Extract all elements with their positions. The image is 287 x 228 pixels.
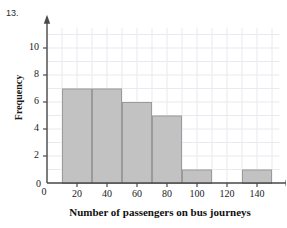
x-tick-label: 140 xyxy=(245,188,269,199)
histogram-bar xyxy=(153,116,182,184)
x-tick-label: 60 xyxy=(125,188,149,199)
x-tick-label: 20 xyxy=(65,188,89,199)
x-tick-label: 100 xyxy=(185,188,209,199)
histogram-bar xyxy=(183,170,212,184)
x-axis-title: Number of passengers on bus journeys xyxy=(40,206,280,218)
histogram-bar xyxy=(63,89,92,184)
x-axis-arrowhead xyxy=(286,180,287,186)
y-axis-arrowhead xyxy=(44,15,50,24)
histogram-bar xyxy=(243,170,272,184)
y-tick-label: 2 xyxy=(21,149,39,160)
x-tick-label: 80 xyxy=(155,188,179,199)
histogram-figure: 13. Frequency Number of passengers on bu… xyxy=(0,0,286,228)
x-tick-label: 0 xyxy=(32,186,56,197)
histogram-bar xyxy=(123,103,152,184)
x-tick-label: 120 xyxy=(215,188,239,199)
y-tick-label: 8 xyxy=(21,68,39,79)
y-tick-label: 6 xyxy=(21,95,39,106)
y-tick-label: 10 xyxy=(21,41,39,52)
x-tick-label: 40 xyxy=(95,188,119,199)
y-tick-label: 4 xyxy=(21,122,39,133)
histogram-bar xyxy=(93,89,122,184)
